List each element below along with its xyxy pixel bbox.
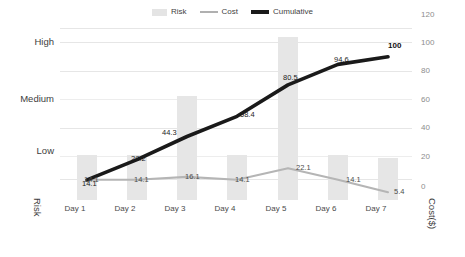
y-left-tick-high: High [4,37,54,47]
data-label-cumulative-day-7: 100 [388,42,401,50]
legend-item-cumulative: Cumulative [251,8,313,16]
y-right-tick-80: 80 [421,67,447,75]
legend-item-risk: Risk [152,8,187,16]
y-right-tick-40: 40 [421,124,447,132]
y-right-tick-60: 60 [421,96,447,104]
data-label-cumulative-day-4: 58.4 [240,111,255,119]
y-left-tick-low: Low [4,146,54,156]
legend-swatch-risk-icon [152,9,167,16]
data-label-cumulative-day-5: 80.5 [283,74,298,82]
legend-label-risk: Risk [171,8,187,16]
y-right-tick-0: 0 [421,183,447,191]
x-tick-day-6: Day 6 [300,205,352,213]
legend-label-cumulative: Cumulative [273,8,313,16]
legend-label-cost: Cost [222,8,238,16]
y-right-tick-20: 20 [421,153,447,161]
y-right-tick-120: 120 [421,11,447,19]
x-tick-day-2: Day 2 [99,205,151,213]
x-tick-day-3: Day 3 [149,205,201,213]
y-axis-title-cost: Cost($) [428,198,438,229]
y-right-tick-100: 100 [421,39,447,47]
data-label-cumulative-day-3: 44.3 [162,129,177,137]
data-label-cost-day-6: 14.1 [346,176,361,184]
data-label-cumulative-day-2: 28.2 [131,155,146,163]
data-label-cost-day-4: 14.1 [235,176,250,184]
data-label-cumulative-day-6: 94.6 [334,56,349,64]
chart-legend: Risk Cost Cumulative [0,8,465,16]
data-label-cost-day-1: 14.1 [84,176,99,184]
y-left-tick-medium: Medium [4,94,54,104]
data-label-cost-day-3: 16.1 [185,173,200,181]
data-label-cost-day-5: 22.1 [296,164,311,172]
legend-line-cumulative-icon [251,10,269,14]
legend-item-cost: Cost [200,8,238,16]
x-tick-day-1: Day 1 [49,205,101,213]
risk-cost-cumulative-chart: Risk Cost Cumulative High Medium Low 120… [0,0,465,257]
data-label-cost-day-2: 14.1 [134,176,149,184]
y-axis-title-risk: Risk [33,198,43,216]
data-label-cost-day-7: 5.4 [394,188,404,196]
x-tick-day-5: Day 5 [250,205,302,213]
x-tick-day-4: Day 4 [199,205,251,213]
x-tick-day-7: Day 7 [350,205,402,213]
legend-line-cost-icon [200,11,218,13]
